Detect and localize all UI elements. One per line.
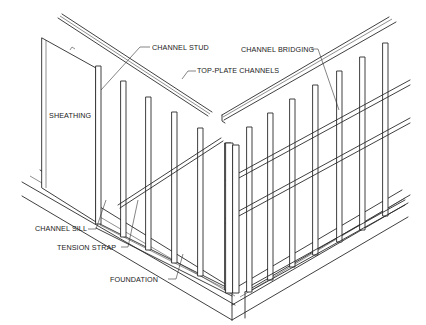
label-sheathing: SHEATHING xyxy=(49,111,92,120)
label-top-plate-channels: TOP-PLATE CHANNELS xyxy=(197,66,279,75)
sheathing-panel xyxy=(42,38,96,222)
tension-strap xyxy=(118,138,223,208)
wall-framing-diagram: CHANNEL STUD TOP-PLATE CHANNELS CHANNEL … xyxy=(0,0,426,325)
label-tension-strap: TENSION STRAP xyxy=(57,243,116,252)
label-foundation: FOUNDATION xyxy=(110,275,158,284)
corner-post xyxy=(226,143,239,293)
label-channel-stud: CHANNEL STUD xyxy=(152,43,209,52)
channel-sill xyxy=(96,222,232,296)
label-channel-sill: CHANNEL SILL xyxy=(35,224,87,233)
left-studs xyxy=(96,66,231,290)
label-channel-bridging: CHANNEL BRIDGING xyxy=(241,45,315,54)
right-studs xyxy=(247,43,388,292)
